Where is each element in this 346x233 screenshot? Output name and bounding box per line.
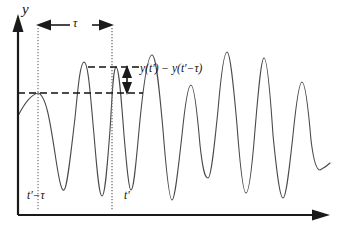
y-axis-group [13, 14, 24, 215]
x-axis-group [18, 210, 330, 221]
amplitude-measure-arrow-group [122, 65, 132, 95]
x-axis-arrowhead-icon [312, 210, 330, 221]
figure-container: y τ y(t′) − y(t′−τ) t′−τ t′ [0, 0, 346, 233]
x-tick-label-t-prime: t′ [124, 190, 130, 202]
waveform-plot [0, 0, 346, 233]
x-tick-label-t-prime-minus-tau: t′−τ [27, 190, 45, 202]
amplitude-difference-label: y(t′) − y(t′−τ) [140, 63, 202, 75]
y-axis-label: y [22, 2, 29, 17]
tau-label: τ [73, 17, 77, 29]
